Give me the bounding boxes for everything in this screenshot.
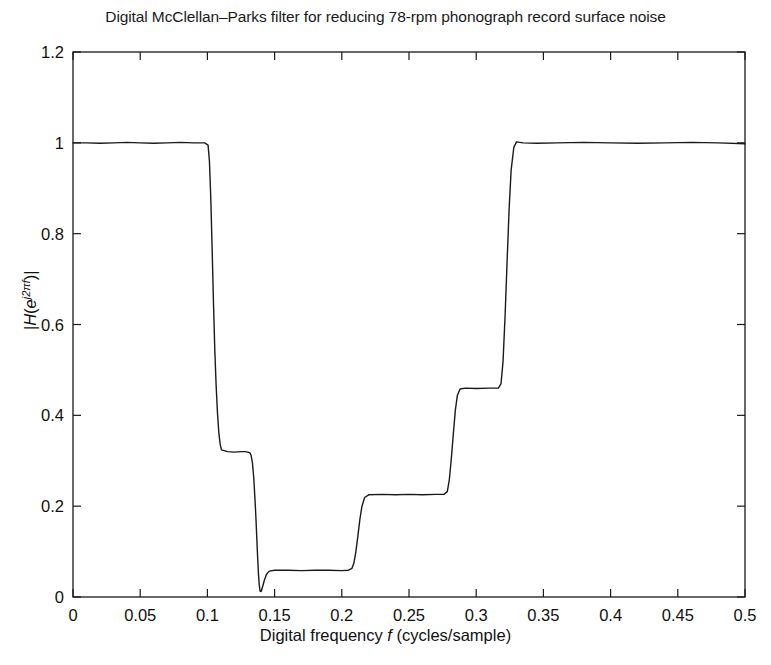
y-tick-label: 0 [55, 588, 64, 606]
y-axis-label-e: e [21, 299, 39, 308]
x-axis-label: Digital frequency f (cycles/sample) [0, 626, 771, 645]
x-tick-label: 0.25 [393, 606, 425, 624]
y-axis-label-paren-open: ( [21, 308, 39, 314]
plot-canvas: 00.050.10.150.20.250.30.350.40.450.5 00.… [0, 0, 771, 665]
x-tick-label: 0.5 [734, 606, 757, 624]
y-axis-label: |H(ej2πf)| [20, 210, 41, 390]
x-tick-label: 0.2 [330, 606, 353, 624]
y-tick-label: 0.6 [41, 316, 64, 334]
plot-border [73, 52, 745, 597]
x-tick-label: 0.05 [124, 606, 156, 624]
y-axis-label-paren-close: ) [21, 275, 39, 281]
y-axis-label-close: | [21, 270, 39, 274]
magnitude-response-line [73, 142, 745, 592]
x-tick-label: 0.45 [662, 606, 694, 624]
y-axis-label-exponent: j2πf [20, 280, 32, 299]
y-axis-label-H: H [21, 314, 39, 326]
y-tick-label: 1.2 [41, 43, 64, 61]
y-tick-label: 0.8 [41, 225, 64, 243]
data-series-group [73, 142, 745, 592]
x-tick-label: 0.1 [196, 606, 219, 624]
axes-frame [73, 52, 745, 597]
x-tick-label: 0 [68, 606, 77, 624]
x-tick-label: 0.3 [465, 606, 488, 624]
y-axis-ticks: 00.20.40.60.811.2 [41, 43, 745, 606]
y-tick-label: 0.2 [41, 497, 64, 515]
y-axis-label-open: | [21, 326, 39, 330]
x-axis-label-prefix: Digital frequency [260, 626, 387, 644]
y-tick-label: 0.4 [41, 406, 64, 424]
x-axis-label-suffix: (cycles/sample) [392, 626, 511, 644]
x-tick-label: 0.15 [259, 606, 291, 624]
x-axis-ticks: 00.050.10.150.20.250.30.350.40.450.5 [68, 52, 756, 624]
x-tick-label: 0.4 [599, 606, 622, 624]
x-tick-label: 0.35 [527, 606, 559, 624]
y-tick-label: 1 [55, 134, 64, 152]
chart-page: Digital McClellan–Parks filter for reduc… [0, 0, 771, 665]
